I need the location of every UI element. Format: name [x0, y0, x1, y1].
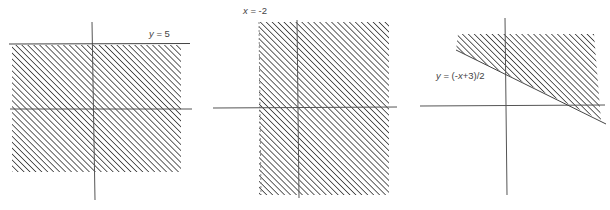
- graph-panel-1: y = 5: [9, 22, 192, 200]
- label-rest: = -2: [248, 5, 267, 16]
- label-rest: = (-: [441, 70, 458, 81]
- inequality-graphs: y = 5 x = -2 y = (-x+3)/2: [0, 0, 610, 210]
- boundary-label: x = -2: [242, 5, 267, 16]
- graph-panel-3: y = (-x+3)/2: [420, 18, 610, 195]
- boundary-label: y = (-x+3)/2: [435, 70, 485, 81]
- label-rest: = 5: [154, 28, 170, 39]
- shaded-region: [259, 22, 389, 195]
- label-rest2: +3)/2: [463, 70, 485, 81]
- boundary-line: [9, 44, 190, 45]
- graph-panel-2: x = -2: [213, 5, 397, 198]
- boundary-label: y = 5: [148, 28, 170, 39]
